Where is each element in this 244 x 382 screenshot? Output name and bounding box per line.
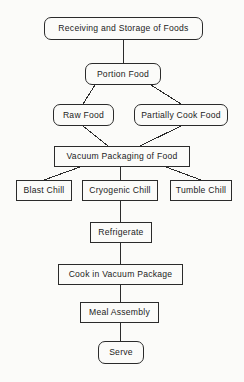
node-label: Serve [109, 348, 133, 357]
node-label: Cryogenic Chill [89, 186, 151, 195]
node-label: Blast Chill [24, 186, 65, 195]
node-label: Raw Food [63, 111, 104, 120]
connector-vacuum-to-blast [44, 167, 80, 180]
node-label: Meal Assembly [89, 308, 150, 317]
node-label: Vacuum Packaging of Food [67, 152, 178, 161]
node-refrigerate[interactable]: Refrigerate [90, 222, 152, 243]
connector-vacuum-to-tumble [166, 167, 201, 180]
node-blast[interactable]: Blast Chill [16, 180, 72, 201]
connector-raw-to-vacuum [83, 126, 108, 146]
node-label: Receiving and Storage of Foods [58, 24, 188, 33]
node-receiving[interactable]: Receiving and Storage of Foods [44, 17, 203, 40]
node-raw[interactable]: Raw Food [53, 104, 114, 126]
node-label: Refrigerate [98, 228, 143, 237]
node-label: Partially Cook Food [141, 111, 221, 120]
node-cryogenic[interactable]: Cryogenic Chill [82, 180, 158, 201]
node-cook[interactable]: Cook in Vacuum Package [58, 264, 183, 285]
node-meal[interactable]: Meal Assembly [80, 302, 159, 323]
flowchart-canvas: Receiving and Storage of FoodsPortion Fo… [0, 0, 244, 382]
node-serve[interactable]: Serve [98, 341, 144, 364]
node-label: Portion Food [97, 70, 149, 79]
node-label: Tumble Chill [176, 186, 226, 195]
node-label: Cook in Vacuum Package [69, 270, 173, 279]
node-tumble[interactable]: Tumble Chill [170, 180, 232, 201]
connector-portion-to-raw [83, 85, 95, 104]
node-partially[interactable]: Partially Cook Food [134, 104, 228, 126]
node-portion[interactable]: Portion Food [85, 63, 161, 85]
connector-partially-to-vacuum [140, 126, 181, 146]
connector-portion-to-partially [151, 85, 181, 104]
node-vacuum[interactable]: Vacuum Packaging of Food [54, 146, 190, 167]
